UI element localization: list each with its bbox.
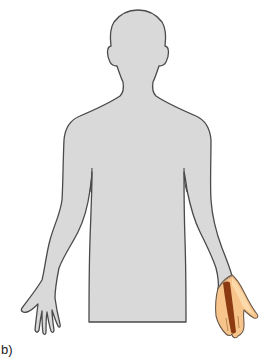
panel-label: b) — [1, 343, 13, 356]
body-diagram — [0, 0, 270, 360]
body-silhouette — [21, 10, 232, 334]
